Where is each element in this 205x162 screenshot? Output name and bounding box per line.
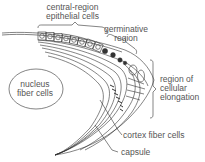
label-central-region-epithelial-cells: central-region epithelial cells [46, 3, 99, 21]
label-region-of-cellular-elongation: region of cellular elongation [160, 75, 199, 102]
label-nucleus-fiber-cells: nucleus fiber cells [17, 80, 53, 98]
lens-diagram: central-region epithelial cells germinat… [0, 0, 205, 162]
label-germinative-region: germinative region [104, 25, 148, 43]
label-capsule: capsule [121, 148, 150, 157]
central-region-bracket [38, 22, 107, 33]
label-cortex-fiber-cells: cortex fiber cells [123, 131, 184, 140]
